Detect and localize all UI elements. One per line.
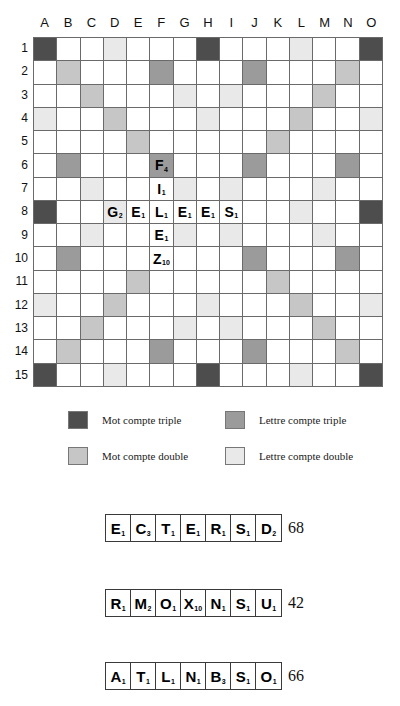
board-cell-n5[interactable]	[336, 131, 359, 154]
board-cell-c9[interactable]	[81, 224, 104, 247]
board-cell-a7[interactable]	[34, 178, 57, 201]
board-cell-a3[interactable]	[34, 85, 57, 108]
board-cell-m6[interactable]	[313, 154, 336, 177]
board-cell-m7[interactable]	[313, 178, 336, 201]
rack-tile[interactable]: U1	[256, 590, 281, 616]
board-cell-i3[interactable]	[220, 85, 243, 108]
board-cell-m10[interactable]	[313, 247, 336, 270]
board-cell-b12[interactable]	[57, 294, 80, 317]
board-cell-d4[interactable]	[104, 108, 127, 131]
board-cell-f6[interactable]: F4	[150, 154, 173, 177]
board-cell-i14[interactable]	[220, 340, 243, 363]
board-cell-l6[interactable]	[290, 154, 313, 177]
rack-tile[interactable]: S1	[231, 590, 256, 616]
board-cell-j1[interactable]	[243, 38, 266, 61]
board-cell-h1[interactable]	[197, 38, 220, 61]
board-cell-e1[interactable]	[127, 38, 150, 61]
board-cell-a6[interactable]	[34, 154, 57, 177]
rack-tile[interactable]: N1	[181, 663, 206, 689]
board-cell-k8[interactable]	[267, 201, 290, 224]
board-cell-i7[interactable]	[220, 178, 243, 201]
board-cell-h12[interactable]	[197, 294, 220, 317]
rack-tile[interactable]: N1	[206, 590, 231, 616]
board-cell-e4[interactable]	[127, 108, 150, 131]
board-cell-e12[interactable]	[127, 294, 150, 317]
board-cell-h8[interactable]: E1	[197, 201, 220, 224]
board-cell-g6[interactable]	[174, 154, 197, 177]
board-cell-g8[interactable]: E1	[174, 201, 197, 224]
board-cell-b1[interactable]	[57, 38, 80, 61]
rack-tile[interactable]: O1	[256, 663, 281, 689]
board-cell-e8[interactable]: E1	[127, 201, 150, 224]
board-cell-n7[interactable]	[336, 178, 359, 201]
board-cell-f5[interactable]	[150, 131, 173, 154]
board-cell-l12[interactable]	[290, 294, 313, 317]
board-cell-j3[interactable]	[243, 85, 266, 108]
board-cell-d14[interactable]	[104, 340, 127, 363]
board-cell-l8[interactable]	[290, 201, 313, 224]
board-cell-o5[interactable]	[360, 131, 383, 154]
board-cell-a1[interactable]	[34, 38, 57, 61]
tile-rack[interactable]: E1C3T1E1R1S1D2	[105, 514, 282, 542]
board-cell-a9[interactable]	[34, 224, 57, 247]
board-cell-j12[interactable]	[243, 294, 266, 317]
board-cell-g13[interactable]	[174, 317, 197, 340]
board-cell-j2[interactable]	[243, 61, 266, 84]
rack-tile[interactable]: D2	[256, 515, 281, 541]
board-cell-l2[interactable]	[290, 61, 313, 84]
board-cell-c2[interactable]	[81, 61, 104, 84]
board-cell-n1[interactable]	[336, 38, 359, 61]
board-cell-f10[interactable]: Z10	[150, 247, 173, 270]
board-cell-m3[interactable]	[313, 85, 336, 108]
board-cell-b11[interactable]	[57, 271, 80, 294]
board-cell-g12[interactable]	[174, 294, 197, 317]
board-cell-g2[interactable]	[174, 61, 197, 84]
board-cell-m14[interactable]	[313, 340, 336, 363]
board-cell-c4[interactable]	[81, 108, 104, 131]
board-cell-b3[interactable]	[57, 85, 80, 108]
board-cell-n2[interactable]	[336, 61, 359, 84]
rack-tile[interactable]: X10	[181, 590, 206, 616]
board-cell-l4[interactable]	[290, 108, 313, 131]
board-cell-e11[interactable]	[127, 271, 150, 294]
board-cell-m8[interactable]	[313, 201, 336, 224]
board-cell-e13[interactable]	[127, 317, 150, 340]
board-cell-o4[interactable]	[360, 108, 383, 131]
board-cell-i13[interactable]	[220, 317, 243, 340]
board-cell-o13[interactable]	[360, 317, 383, 340]
board-cell-o8[interactable]	[360, 201, 383, 224]
board-cell-e14[interactable]	[127, 340, 150, 363]
board-cell-k11[interactable]	[267, 271, 290, 294]
board-cell-o7[interactable]	[360, 178, 383, 201]
board-cell-n12[interactable]	[336, 294, 359, 317]
board-cell-a4[interactable]	[34, 108, 57, 131]
board-cell-j5[interactable]	[243, 131, 266, 154]
board-cell-h15[interactable]	[197, 364, 220, 387]
board-cell-f15[interactable]	[150, 364, 173, 387]
board-cell-c13[interactable]	[81, 317, 104, 340]
board-cell-l3[interactable]	[290, 85, 313, 108]
board-cell-j6[interactable]	[243, 154, 266, 177]
board-cell-g14[interactable]	[174, 340, 197, 363]
board-cell-f11[interactable]	[150, 271, 173, 294]
board-cell-a11[interactable]	[34, 271, 57, 294]
board-cell-o11[interactable]	[360, 271, 383, 294]
rack-tile[interactable]: A1	[106, 663, 131, 689]
board-cell-m13[interactable]	[313, 317, 336, 340]
board-cell-i11[interactable]	[220, 271, 243, 294]
board-cell-o10[interactable]	[360, 247, 383, 270]
board-cell-a10[interactable]	[34, 247, 57, 270]
board-cell-n11[interactable]	[336, 271, 359, 294]
board-cell-e15[interactable]	[127, 364, 150, 387]
board-cell-f12[interactable]	[150, 294, 173, 317]
board-cell-d9[interactable]	[104, 224, 127, 247]
board-cell-c6[interactable]	[81, 154, 104, 177]
board-cell-m2[interactable]	[313, 61, 336, 84]
board-cell-k14[interactable]	[267, 340, 290, 363]
board-cell-i9[interactable]	[220, 224, 243, 247]
board-cell-j4[interactable]	[243, 108, 266, 131]
board-cell-h13[interactable]	[197, 317, 220, 340]
board-cell-n8[interactable]	[336, 201, 359, 224]
board-cell-j14[interactable]	[243, 340, 266, 363]
rack-tile[interactable]: T1	[156, 515, 181, 541]
